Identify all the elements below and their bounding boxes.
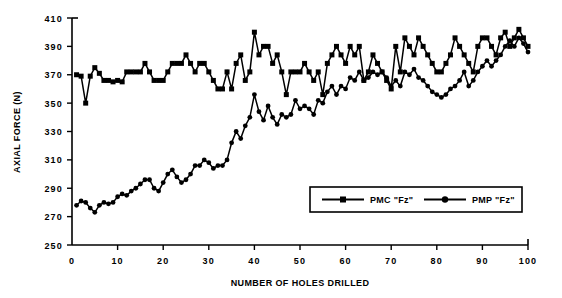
data-point-marker	[156, 189, 161, 194]
data-point-marker	[275, 122, 280, 127]
data-point-marker	[229, 86, 234, 91]
data-point-marker	[83, 200, 88, 205]
data-point-marker	[284, 92, 289, 97]
data-point-marker	[174, 175, 179, 180]
data-point-marker	[120, 79, 125, 84]
data-point-marker	[398, 69, 403, 74]
data-point-marker	[503, 30, 508, 35]
data-point-marker	[320, 101, 325, 106]
y-tick-label: 390	[44, 42, 63, 52]
data-point-marker	[179, 61, 184, 66]
data-point-marker	[393, 78, 398, 83]
data-point-marker	[111, 200, 116, 205]
data-point-marker	[430, 89, 435, 94]
data-point-marker	[284, 115, 289, 120]
data-point-marker	[307, 69, 312, 74]
data-point-marker	[193, 163, 198, 168]
y-tick-label: 310	[44, 155, 63, 165]
data-point-marker	[234, 61, 239, 66]
x-axis-tick-labels: 0102030405060708090100	[69, 256, 537, 266]
data-point-marker	[215, 86, 220, 91]
data-point-marker	[266, 44, 271, 49]
data-point-marker	[302, 61, 307, 66]
data-point-marker	[161, 180, 166, 185]
data-point-marker	[471, 78, 476, 83]
data-point-marker	[197, 61, 202, 66]
x-tick-label: 30	[203, 256, 215, 266]
data-point-marker	[261, 118, 266, 123]
data-point-marker	[165, 69, 170, 74]
data-point-marker	[202, 61, 207, 66]
data-point-marker	[443, 61, 448, 66]
y-tick-label: 250	[44, 241, 63, 251]
data-point-marker	[92, 210, 97, 215]
data-point-marker	[307, 106, 312, 111]
data-point-marker	[448, 52, 453, 57]
data-point-marker	[475, 44, 480, 49]
data-point-marker	[298, 106, 303, 111]
data-point-marker	[412, 52, 417, 57]
data-point-marker	[357, 70, 362, 75]
data-point-marker	[516, 27, 521, 32]
data-point-marker	[343, 87, 348, 92]
data-point-marker	[147, 177, 152, 182]
data-point-marker	[457, 44, 462, 49]
data-point-marker	[311, 112, 316, 117]
x-tick-label: 80	[431, 256, 443, 266]
data-point-marker	[375, 61, 380, 66]
data-point-marker	[330, 84, 335, 89]
x-tick-label: 10	[111, 256, 123, 266]
x-tick-label: 70	[385, 256, 397, 266]
data-point-marker	[243, 78, 248, 83]
data-point-marker	[220, 163, 225, 168]
data-point-marker	[407, 72, 412, 77]
data-point-marker	[393, 44, 398, 49]
x-tick-label: 90	[476, 256, 488, 266]
data-point-marker	[339, 52, 344, 57]
data-point-marker	[507, 44, 512, 49]
data-point-marker	[243, 123, 248, 128]
data-point-marker	[425, 52, 430, 57]
data-point-marker	[133, 69, 138, 74]
data-point-marker	[343, 61, 348, 66]
data-point-marker	[293, 69, 298, 74]
data-point-marker	[439, 69, 444, 74]
data-point-marker	[174, 61, 179, 66]
y-tick-label: 370	[44, 70, 63, 80]
data-point-marker	[507, 38, 512, 43]
data-point-marker	[421, 78, 426, 83]
chart-legend: PMC "Fz"PMP "Fz"	[310, 187, 522, 212]
data-point-marker	[489, 44, 494, 49]
data-point-marker	[261, 44, 266, 49]
data-point-marker	[357, 44, 362, 49]
data-point-marker	[88, 206, 93, 211]
y-tick-label: 330	[44, 127, 63, 137]
data-point-marker	[88, 74, 93, 79]
x-tick-label: 50	[294, 256, 306, 266]
data-point-marker	[138, 69, 143, 74]
data-point-marker	[512, 35, 517, 40]
y-axis-title: AXIAL FORCE (N)	[12, 91, 22, 173]
data-point-marker	[256, 52, 261, 57]
data-point-marker	[402, 35, 407, 40]
data-point-marker	[143, 177, 148, 182]
data-point-marker	[512, 44, 517, 49]
data-point-marker	[184, 52, 189, 57]
data-point-marker	[457, 78, 462, 83]
data-point-marker	[521, 35, 526, 40]
data-point-marker	[124, 69, 129, 74]
data-point-marker	[111, 79, 116, 84]
legend-label: PMP "Fz"	[472, 195, 515, 205]
data-point-marker	[206, 160, 211, 165]
data-point-marker	[234, 129, 239, 134]
data-point-marker	[266, 104, 271, 109]
data-point-marker	[238, 136, 243, 141]
data-point-marker	[79, 199, 84, 204]
data-point-marker	[188, 61, 193, 66]
series-line	[77, 29, 528, 103]
data-point-marker	[184, 177, 189, 182]
x-tick-label: 100	[519, 256, 538, 266]
series-pmc	[74, 27, 530, 106]
data-point-marker	[434, 69, 439, 74]
data-point-marker	[453, 84, 458, 89]
